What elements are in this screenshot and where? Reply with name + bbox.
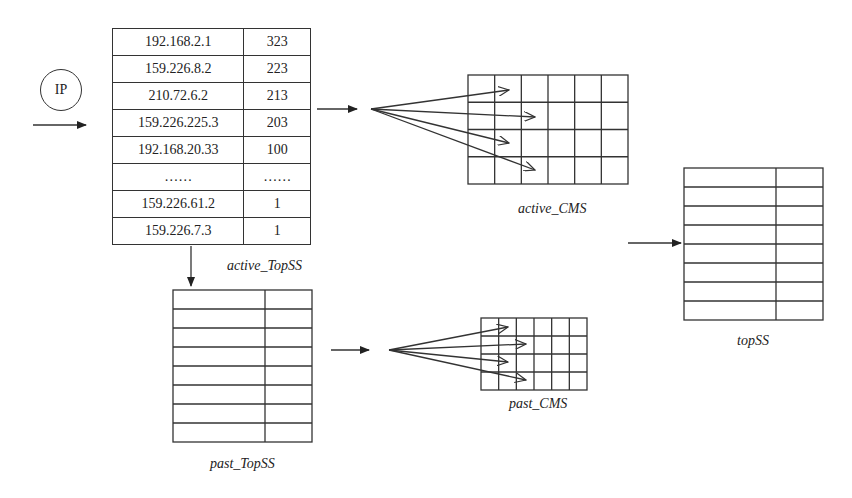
topss-table <box>684 168 823 320</box>
count-cell: …… <box>244 164 311 191</box>
count-cell: 1 <box>244 218 311 245</box>
table-row: 210.72.6.2213 <box>113 83 311 110</box>
past-topss-table <box>173 290 312 442</box>
past-topss-label: past_TopSS <box>210 456 275 472</box>
topss-label: topSS <box>737 333 769 349</box>
ip-address-cell: 192.168.2.1 <box>113 29 244 56</box>
count-cell: 223 <box>244 56 311 83</box>
ip-address-cell: 210.72.6.2 <box>113 83 244 110</box>
past-cms-label: past_CMS <box>509 396 567 412</box>
ip-address-cell: 159.226.61.2 <box>113 191 244 218</box>
ip-address-cell: …… <box>113 164 244 191</box>
table-row: 159.226.225.3203 <box>113 110 311 137</box>
table-row: ………… <box>113 164 311 191</box>
table-row: 192.168.20.33100 <box>113 137 311 164</box>
count-cell: 203 <box>244 110 311 137</box>
past-cms-grid <box>481 318 587 390</box>
active-cms-grid <box>468 75 628 184</box>
ip-input-node: IP <box>40 69 82 111</box>
table-row: 159.226.7.31 <box>113 218 311 245</box>
ip-address-cell: 159.226.8.2 <box>113 56 244 83</box>
count-cell: 1 <box>244 191 311 218</box>
table-row: 159.226.61.21 <box>113 191 311 218</box>
table-row: 192.168.2.1323 <box>113 29 311 56</box>
ip-address-cell: 159.226.7.3 <box>113 218 244 245</box>
active-topss-label: active_TopSS <box>227 258 302 274</box>
ip-address-cell: 159.226.225.3 <box>113 110 244 137</box>
count-cell: 323 <box>244 29 311 56</box>
ip-address-cell: 192.168.20.33 <box>113 137 244 164</box>
table-row: 159.226.8.2223 <box>113 56 311 83</box>
ip-label: IP <box>55 82 67 98</box>
count-cell: 213 <box>244 83 311 110</box>
active-topss-table: 192.168.2.1323159.226.8.2223210.72.6.221… <box>112 28 311 245</box>
count-cell: 100 <box>244 137 311 164</box>
active-cms-label: active_CMS <box>518 201 586 217</box>
